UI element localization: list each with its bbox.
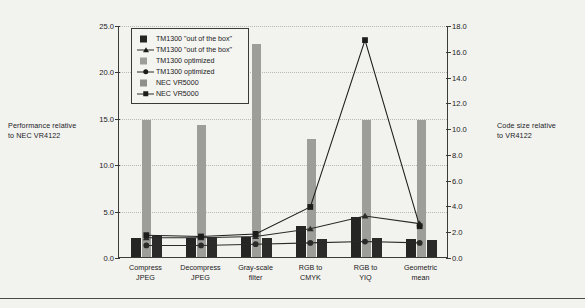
y2-axis-tick-label: 16.0 <box>452 47 467 56</box>
y2-axis-tick-label: 2.0 <box>452 228 463 237</box>
legend-item[interactable]: TM1300 "out of the box" <box>137 44 243 55</box>
y2-axis-tick-label: 18.0 <box>452 22 467 31</box>
legend-line-square-icon <box>137 88 154 99</box>
legend-item[interactable]: TM1300 "out of the box" <box>137 33 243 44</box>
legend-item-label: TM1300 optimized <box>156 68 214 76</box>
legend-swatch-black-icon <box>137 33 154 44</box>
footer-rule <box>0 298 585 299</box>
y2-axis-tick-label: 14.0 <box>452 73 467 82</box>
legend-item-label: NEC VR5000 <box>156 90 199 98</box>
line-marker-circle <box>253 241 259 247</box>
category-label: Gray-scale filter <box>228 263 283 282</box>
line-marker-square <box>198 234 204 240</box>
line-marker-circle <box>143 243 149 249</box>
y2-axis-tick-label: 6.0 <box>452 176 463 185</box>
right-axis-title: Code size relative to VR4122 <box>497 121 583 140</box>
y2-axis-tick-label: 10.0 <box>452 125 467 134</box>
y2-axis-tick-label: 0.0 <box>452 254 463 263</box>
line-marker-circle <box>198 243 204 249</box>
legend-item[interactable]: TM1300 optimized <box>137 55 243 66</box>
y2-axis-tick-label: 12.0 <box>452 99 467 108</box>
y-axis-tick-label: 5.0 <box>103 207 114 216</box>
line-marker-square <box>362 37 368 43</box>
legend-item[interactable]: NEC VR5000 <box>137 77 243 88</box>
y-axis-tick-label: 0.0 <box>103 254 114 263</box>
category-label: Decompress JPEG <box>173 263 228 282</box>
y2-axis-tick <box>446 258 451 259</box>
y-axis-tick-label: 10.0 <box>99 161 114 170</box>
y-axis-tick-label: 20.0 <box>99 68 114 77</box>
left-axis-title: Performance relative to NEC VR4122 <box>8 121 92 140</box>
line-series <box>146 242 419 246</box>
category-label: RGB to YIQ <box>338 263 393 282</box>
legend-swatch-gray-icon <box>137 55 154 66</box>
line-marker-square <box>417 223 423 229</box>
legend-swatch-gray-dark-icon <box>137 77 154 88</box>
y2-axis-tick-label: 4.0 <box>452 202 463 211</box>
legend-item-label: TM1300 "out of the box" <box>156 46 232 54</box>
legend-item-label: TM1300 "out of the box" <box>156 35 232 43</box>
category-label: Geometric mean <box>393 263 448 282</box>
line-marker-circle <box>417 240 423 246</box>
line-marker-square <box>307 204 313 210</box>
y2-axis-tick-label: 8.0 <box>452 150 463 159</box>
line-marker-triangle <box>362 213 369 219</box>
category-label: Compress JPEG <box>118 263 173 282</box>
line-marker-square <box>143 232 149 238</box>
y-axis-tick-label: 25.0 <box>99 22 114 31</box>
line-marker-circle <box>307 240 313 246</box>
legend-item-label: NEC VR5000 <box>156 79 199 87</box>
legend-line-circle-icon <box>137 66 154 77</box>
legend-line-triangle-icon <box>137 44 154 55</box>
line-marker-circle <box>362 239 368 245</box>
chart-figure: Performance relative to NEC VR4122 Code … <box>0 0 585 308</box>
y-axis-tick <box>115 258 120 259</box>
line-marker-square <box>253 231 259 237</box>
legend-item[interactable]: NEC VR5000 <box>137 88 243 99</box>
legend-item-label: TM1300 optimized <box>156 57 214 65</box>
category-label: RGB to CMYK <box>283 263 338 282</box>
chart-legend: TM1300 "out of the box"TM1300 "out of th… <box>131 28 249 104</box>
y-axis-tick-label: 15.0 <box>99 114 114 123</box>
line-series <box>146 216 419 238</box>
legend-item[interactable]: TM1300 optimized <box>137 66 243 77</box>
